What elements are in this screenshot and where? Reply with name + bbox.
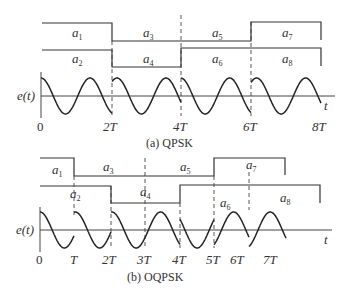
qpsk-symbol-a7: a7 — [282, 25, 293, 42]
qpsk-tick-2T: 2T — [103, 119, 118, 134]
panel-oqpsk: a1 a3 a5 a7 a2 a4 a6 a8 e(t) t 0 T 2T 3T… — [16, 157, 332, 284]
qpsk-symbol-a6: a6 — [212, 51, 223, 68]
qpsk-even-bitstream — [42, 48, 321, 67]
qpsk-oqpsk-diagram: a1 a3 a5 a7 a2 a4 a6 a8 e(t) t 0 2T 4T 6… — [0, 0, 346, 300]
qpsk-symbol-a4: a4 — [143, 51, 154, 68]
oqpsk-symbol-a7: a7 — [246, 157, 257, 174]
oqpsk-symbol-a5: a5 — [180, 159, 191, 176]
qpsk-symbol-a1: a1 — [72, 25, 83, 42]
qpsk-tick-8T: 8T — [312, 119, 327, 134]
oqpsk-symbol-a2: a2 — [70, 186, 81, 203]
qpsk-y-label: e(t) — [17, 88, 35, 103]
oqpsk-tick-7T: 7T — [263, 252, 278, 267]
oqpsk-tick-4T: 4T — [172, 252, 187, 267]
oqpsk-symbol-a8: a8 — [280, 190, 291, 207]
oqpsk-tick-0: 0 — [36, 252, 43, 267]
qpsk-odd-bitstream — [42, 22, 321, 41]
oqpsk-symbol-a3: a3 — [103, 159, 114, 176]
oqpsk-x-label: t — [324, 232, 328, 247]
oqpsk-y-label: e(t) — [16, 222, 34, 237]
oqpsk-even-bitstream — [40, 185, 320, 203]
qpsk-symbol-a2: a2 — [72, 51, 83, 68]
oqpsk-caption: (b) OQPSK — [127, 270, 184, 284]
qpsk-x-label: t — [324, 98, 328, 113]
qpsk-symbol-a8: a8 — [282, 51, 293, 68]
oqpsk-tick-5T: 5T — [206, 252, 221, 267]
oqpsk-tick-3T: 3T — [136, 252, 152, 267]
qpsk-symbol-a3: a3 — [143, 25, 154, 42]
oqpsk-symbol-a4: a4 — [140, 184, 151, 201]
qpsk-tick-6T: 6T — [243, 119, 258, 134]
qpsk-tick-4T: 4T — [173, 119, 188, 134]
qpsk-caption: (a) QPSK — [146, 136, 193, 150]
oqpsk-tick-T: T — [70, 252, 78, 267]
qpsk-tick-0: 0 — [37, 119, 44, 134]
oqpsk-symbol-a6: a6 — [220, 195, 231, 212]
qpsk-symbol-a5: a5 — [212, 25, 223, 42]
oqpsk-symbol-a1: a1 — [52, 162, 63, 179]
panel-qpsk: a1 a3 a5 a7 a2 a4 a6 a8 e(t) t 0 2T 4T 6… — [17, 15, 335, 150]
oqpsk-tick-6T: 6T — [230, 252, 245, 267]
oqpsk-tick-2T: 2T — [102, 252, 117, 267]
